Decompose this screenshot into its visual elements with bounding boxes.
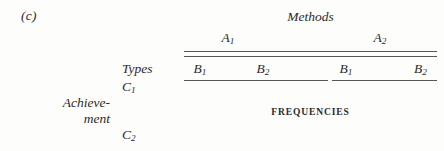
row-level-c1-base: C — [122, 79, 131, 94]
column-level-a1-b2: B2 — [244, 62, 282, 77]
row-level-c2: C2 — [122, 128, 136, 143]
panel-letter: (c) — [21, 9, 37, 23]
column-level-a1-b1-subscript: 1 — [202, 67, 207, 77]
column-spanner-methods: Methods — [184, 10, 437, 24]
column-level-a2-base: A — [374, 30, 382, 45]
table-rule-top — [184, 51, 437, 52]
row-types-label: Types — [122, 62, 153, 76]
column-level-a1-b1: B1 — [184, 62, 216, 77]
table-rule-bottom-left — [184, 80, 328, 81]
table-rule-top-inner — [184, 56, 437, 57]
column-level-a1-b2-base: B — [257, 61, 265, 76]
row-factor-label-line1: Achieve- — [30, 95, 110, 111]
column-level-a2-b1-base: B — [340, 61, 348, 76]
column-level-a1-b1-base: B — [194, 61, 202, 76]
table-rule-bottom-right — [332, 80, 437, 81]
column-level-a2: A2 — [332, 31, 428, 46]
row-level-c2-base: C — [122, 127, 131, 142]
column-level-a1: A1 — [184, 31, 272, 46]
row-factor-label-line2: ment — [30, 111, 110, 127]
row-level-c1-subscript: 1 — [131, 85, 136, 95]
column-level-a1-b2-subscript: 2 — [265, 67, 270, 77]
column-level-a2-subscript: 2 — [382, 36, 387, 46]
column-level-a2-b1: B1 — [330, 62, 362, 77]
column-level-a2-b2: B2 — [404, 62, 437, 77]
column-level-a1-subscript: 1 — [230, 36, 235, 46]
row-level-c1: C1 — [122, 80, 136, 95]
table-body-caption: FREQUENCIES — [184, 108, 437, 118]
row-level-c2-subscript: 2 — [131, 133, 136, 143]
column-level-a1-base: A — [222, 30, 230, 45]
column-level-a2-b2-subscript: 2 — [422, 67, 427, 77]
table-skeleton-figure: (c) Achieve- ment Types C1 C2 Methods A1… — [0, 0, 444, 151]
row-factor-label: Achieve- ment — [30, 95, 110, 128]
column-level-a2-b1-subscript: 1 — [348, 67, 353, 77]
